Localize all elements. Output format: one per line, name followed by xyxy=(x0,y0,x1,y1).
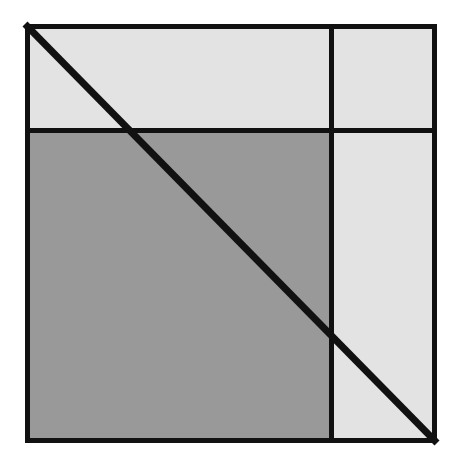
region-top-right xyxy=(331,24,437,130)
region-top-left xyxy=(25,24,331,130)
figure-container xyxy=(0,0,458,457)
geometry-diagram xyxy=(0,0,458,457)
region-bottom-right xyxy=(331,130,437,443)
